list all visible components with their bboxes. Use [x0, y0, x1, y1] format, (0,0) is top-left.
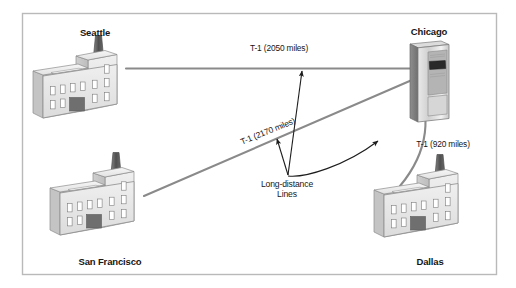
callout-line-1: Long-distance — [261, 179, 313, 189]
link-label-chicago-dallas: T-1 (920 miles) — [391, 140, 495, 149]
callout-long-distance-lines: Long-distanceLines — [237, 180, 337, 199]
node-label-san-francisco: San Francisco — [60, 257, 160, 268]
node-label-seattle: Seattle — [60, 28, 130, 39]
network-topology-diagram: seattle — [0, 0, 516, 288]
callout-line-2: Lines — [277, 189, 297, 199]
node-chicago[interactable] — [410, 41, 449, 122]
server-tower-icon — [410, 41, 449, 122]
node-label-dallas: Dallas — [395, 257, 465, 268]
link-label-seattle-chicago: T-1 (2050 miles) — [224, 44, 334, 53]
node-label-chicago: Chicago — [394, 27, 464, 38]
